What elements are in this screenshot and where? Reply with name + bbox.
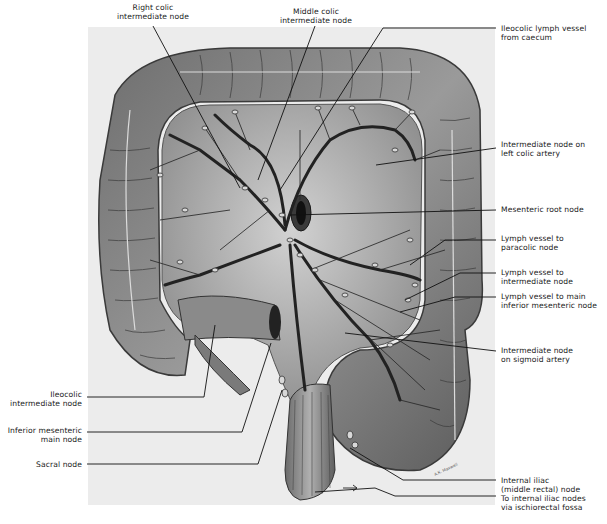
label-line: Ileocolic lymph vessel [501,24,586,33]
label-ischiorectal-route: To internal iliac nodes via ischiorectal… [501,494,586,512]
label-line: main node [8,435,82,444]
label-left-colic-node: Intermediate node on left colic artery [501,140,585,158]
label-line: Lymph vessel to [501,268,573,277]
label-line: intermediate node [280,16,352,25]
label-line: Ileocolic [10,390,82,399]
label-middle-colic-node: Middle colic intermediate node [280,7,352,25]
label-ileocolic-node: Ileocolic intermediate node [10,390,82,408]
terminal-ileum [178,296,280,340]
label-line: from caecum [501,33,586,42]
label-line: via ischiorectal fossa [501,503,586,512]
label-right-colic-node: Right colic intermediate node [117,3,189,21]
label-line: Lymph vessel to [501,234,564,243]
label-line: Intermediate node on [501,140,585,149]
label-line: Right colic [117,3,189,12]
label-intermediate-vessel: Lymph vessel to intermediate node [501,268,573,286]
anatomical-figure: A.K. Maxwell Right colic intermediate no… [0,0,607,524]
label-line: Inferior mesenteric [8,426,82,435]
label-line: Sacral node [36,460,82,469]
label-inferior-mesenteric-node: Inferior mesenteric main node [8,426,82,444]
label-internal-iliac-node: Internal iliac (middle rectal) node [501,476,580,494]
ileum-lumen [269,305,281,339]
label-line: paracolic node [501,243,564,252]
rectum [285,384,335,500]
label-line: on sigmoid artery [501,355,573,364]
label-main-inferior-vessel: Lymph vessel to main inferior mesenteric… [501,292,597,310]
label-line: Intermediate node [501,346,573,355]
label-line: Mesenteric root node [501,205,584,214]
label-sigmoid-node: Intermediate node on sigmoid artery [501,346,573,364]
label-line: intermediate node [501,277,573,286]
label-line: (middle rectal) node [501,485,580,494]
label-line: To internal iliac nodes [501,494,586,503]
label-ileocolic-lymph-vessel: Ileocolic lymph vessel from caecum [501,24,586,42]
label-line: Middle colic [280,7,352,16]
label-line: left colic artery [501,149,585,158]
label-line: intermediate node [117,12,189,21]
label-line: Lymph vessel to main [501,292,597,301]
label-line: inferior mesenteric node [501,301,597,310]
label-mesenteric-root-node: Mesenteric root node [501,205,584,214]
label-line: intermediate node [10,399,82,408]
label-paracolic-vessel: Lymph vessel to paracolic node [501,234,564,252]
colon-lymphatics-illustration: A.K. Maxwell [0,0,607,524]
label-sacral-node: Sacral node [36,460,82,469]
label-line: Internal iliac [501,476,580,485]
